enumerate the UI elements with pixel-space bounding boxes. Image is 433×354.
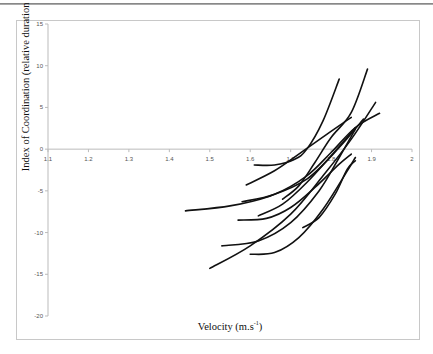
y-tick-label: -5 (38, 188, 44, 194)
x-tick-label: 1.4 (165, 156, 174, 162)
x-tick-label: 1.3 (125, 156, 134, 162)
x-tick-label: 2 (410, 156, 414, 162)
y-tick-label: -20 (34, 313, 43, 319)
x-tick-label: 1.6 (246, 156, 255, 162)
y-tick-label: 5 (40, 104, 44, 110)
x-tick-label: 1.9 (367, 156, 376, 162)
y-tick-label: -15 (34, 271, 43, 277)
y-tick-label: 0 (40, 146, 44, 152)
y-tick-label: -10 (34, 230, 43, 236)
x-tick-label: 1.5 (206, 156, 215, 162)
series-line (250, 158, 355, 255)
x-axis-label: Velocity (m.s-1) (48, 320, 412, 332)
y-tick-label: 15 (36, 21, 43, 27)
x-tick-label: 1.2 (84, 156, 93, 162)
y-axis-label: Index of Coordination (relative duration… (20, 0, 32, 180)
series-line (254, 79, 339, 165)
y-tick-label: 10 (36, 63, 43, 69)
line-chart: 151050-5-10-15-201.11.21.31.41.51.61.71.… (0, 0, 433, 354)
x-tick-label: 1.1 (44, 156, 53, 162)
